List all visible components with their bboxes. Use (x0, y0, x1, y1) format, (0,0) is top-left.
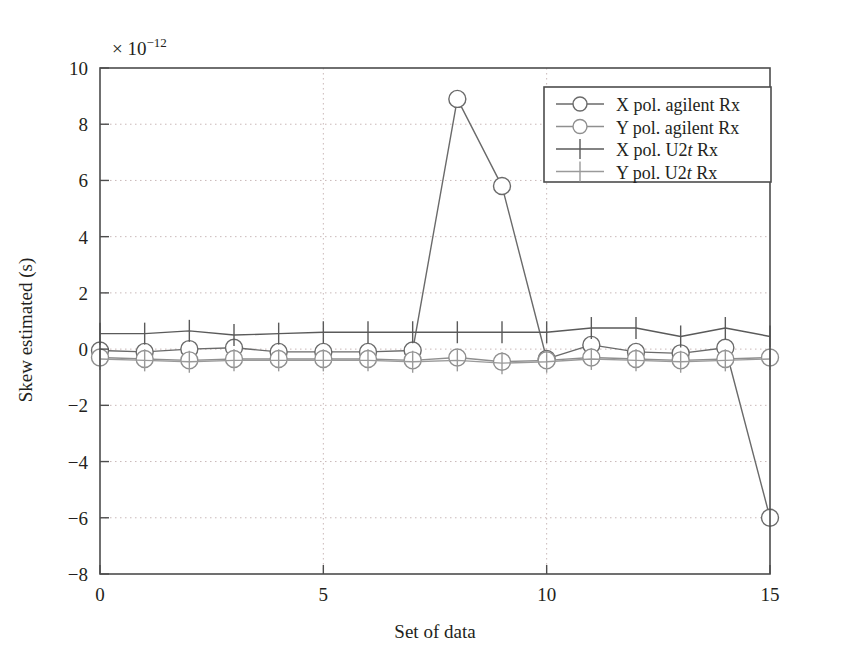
legend-label: X pol. agilent Rx (616, 95, 740, 115)
y-tick-label: 0 (79, 339, 89, 360)
y-tick-label: 4 (79, 227, 89, 248)
y-tick-label: −6 (68, 508, 88, 529)
series-4 (100, 348, 770, 374)
chart-figure: −8−6−4−20246810051015 X pol. agilent RxY… (0, 0, 841, 667)
series-3 (100, 317, 770, 347)
y-tick-label: 2 (79, 283, 89, 304)
skew-estimated-line-chart: −8−6−4−20246810051015 X pol. agilent RxY… (0, 0, 841, 667)
y-tick-label: −2 (68, 395, 88, 416)
y-axis-title: Skew estimated (s) (15, 258, 37, 403)
legend-entry-3[interactable]: X pol. U2t Rx (556, 139, 718, 160)
x-tick-label: 5 (319, 584, 329, 605)
y-tick-label: −8 (68, 564, 88, 585)
y-axis-exponent-label: × 10−12 (112, 35, 167, 59)
x-tick-label: 0 (95, 584, 105, 605)
legend[interactable]: X pol. agilent RxY pol. agilent RxX pol.… (544, 87, 771, 183)
x-tick-label: 15 (761, 584, 780, 605)
y-tick-label: 6 (79, 170, 89, 191)
x-axis-title: Set of data (394, 621, 476, 642)
legend-entry-4[interactable]: Y pol. U2t Rx (556, 162, 717, 183)
x-tick-label: 10 (537, 584, 556, 605)
legend-label: Y pol. U2t Rx (616, 163, 717, 183)
y-tick-label: −4 (68, 452, 89, 473)
legend-label: Y pol. agilent Rx (616, 118, 739, 138)
legend-label: X pol. U2t Rx (616, 140, 718, 160)
y-tick-label: 10 (69, 58, 88, 79)
y-tick-label: 8 (79, 114, 89, 135)
